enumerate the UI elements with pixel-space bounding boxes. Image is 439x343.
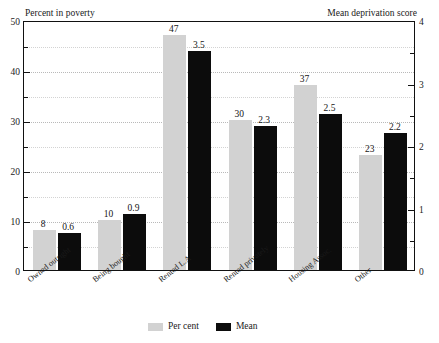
tick-label-right: 3 xyxy=(419,80,424,90)
tick-right-minor xyxy=(410,116,414,117)
tick-right-minor xyxy=(410,53,414,54)
bar-mean xyxy=(319,114,342,270)
bar-value-mean: 3.5 xyxy=(181,40,216,50)
tick-right xyxy=(408,147,414,148)
left-axis-label: Percent in poverty xyxy=(25,8,95,19)
bar-mean xyxy=(188,51,211,270)
tick-label-left: 40 xyxy=(11,67,21,77)
gridline-major xyxy=(24,172,414,173)
legend-swatch-icon xyxy=(148,323,163,331)
tick-left-minor xyxy=(24,147,28,148)
legend-label: Mean xyxy=(236,321,258,332)
tick-label-right: 2 xyxy=(419,142,424,152)
gridline-minor xyxy=(24,47,414,48)
tick-right xyxy=(408,210,414,211)
tick-label-left: 10 xyxy=(11,217,21,227)
bar-mean xyxy=(123,214,146,270)
tick-left xyxy=(24,122,30,123)
legend-label: Per cent xyxy=(168,321,199,332)
tick-left xyxy=(24,172,30,173)
legend-item: Per cent xyxy=(148,321,199,332)
bar-percent xyxy=(229,120,252,270)
tick-label-right: 1 xyxy=(419,205,424,215)
bar-percent xyxy=(163,35,186,270)
legend: Per centMean xyxy=(148,321,258,332)
gridline-major xyxy=(24,72,414,73)
tick-right-minor xyxy=(410,241,414,242)
tick-left-minor xyxy=(24,197,28,198)
tick-left-minor xyxy=(24,247,28,248)
tick-label-left: 30 xyxy=(11,117,21,127)
tick-right xyxy=(408,85,414,86)
bar-value-percent: 47 xyxy=(156,24,191,34)
tick-left xyxy=(24,72,30,73)
bar-value-percent: 23 xyxy=(352,144,387,154)
bar-value-mean: 2.3 xyxy=(247,115,282,125)
legend-swatch-icon xyxy=(216,323,231,331)
bar-value-mean: 0.9 xyxy=(116,203,151,213)
tick-label-left: 20 xyxy=(11,167,21,177)
gridline-major xyxy=(24,122,414,123)
tick-label-left: 0 xyxy=(15,267,20,277)
bar-value-mean: 2.5 xyxy=(312,103,347,113)
bar-chart: Percent in poverty Mean deprivation scor… xyxy=(0,0,439,343)
bar-percent xyxy=(359,155,382,270)
bar-mean xyxy=(384,133,407,271)
tick-label-right: 4 xyxy=(419,17,424,27)
bar-value-mean: 2.2 xyxy=(377,122,412,132)
bar-value-mean: 0.6 xyxy=(51,222,86,232)
tick-label-left: 50 xyxy=(11,17,21,27)
tick-left-minor xyxy=(24,47,28,48)
right-axis-label: Mean deprivation score xyxy=(327,8,417,19)
tick-left-minor xyxy=(24,97,28,98)
bar-percent xyxy=(294,85,317,270)
bar-value-percent: 37 xyxy=(287,74,322,84)
legend-item: Mean xyxy=(216,321,258,332)
tick-right-minor xyxy=(410,178,414,179)
gridline-minor xyxy=(24,197,414,198)
tick-label-right: 0 xyxy=(419,267,424,277)
gridline-minor xyxy=(24,97,414,98)
gridline-minor xyxy=(24,247,414,248)
